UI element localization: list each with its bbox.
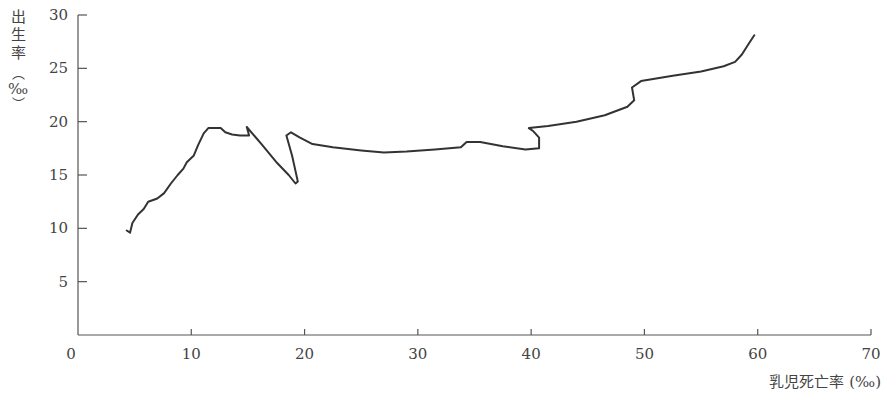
y-axis-label-char: 生: [6, 26, 30, 44]
y-axis-label-paren-close: ︶: [6, 98, 30, 110]
x-tick-label: 50: [635, 345, 654, 363]
x-tick-labels: 010203040506070: [66, 329, 880, 363]
axes: [78, 15, 871, 335]
y-tick-label: 15: [49, 166, 68, 184]
x-tick-label: 0: [66, 345, 76, 363]
x-tick-label: 60: [748, 345, 767, 363]
y-tick-labels: 51015202530: [49, 6, 87, 291]
chart-canvas: 51015202530 010203040506070: [0, 0, 889, 395]
x-tick-label: 10: [182, 345, 201, 363]
y-axis-label-paren-open: ︵: [6, 68, 30, 80]
data-line: [127, 35, 755, 232]
y-tick-label: 20: [49, 113, 68, 131]
x-axis-label: 乳児死亡率 (‰): [769, 370, 881, 391]
y-axis-label-char: 率: [6, 44, 30, 62]
y-axis-label-char: 出: [6, 8, 30, 26]
x-tick-label: 70: [861, 345, 880, 363]
x-tick-label: 20: [295, 345, 314, 363]
x-tick-label: 40: [522, 345, 541, 363]
y-tick-label: 10: [49, 219, 68, 237]
y-tick-label: 30: [49, 6, 68, 24]
x-tick-label: 30: [408, 345, 427, 363]
y-axis-label: 出 生 率 ︵ ‰ ︶: [6, 8, 30, 110]
y-tick-label: 25: [49, 59, 68, 77]
y-tick-label: 5: [58, 273, 68, 291]
